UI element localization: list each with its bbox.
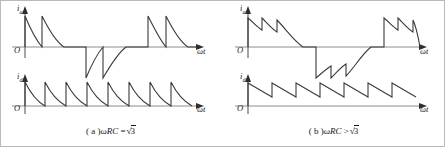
- x-axis: [235, 44, 427, 50]
- figure-container: ia O ωt id O ωt ( a )ωRC =√3: [0, 0, 445, 147]
- panel-b-anode-current-plot: [223, 2, 445, 70]
- radicand: 3: [131, 125, 137, 136]
- panel-b: ia O ωt id O ωt ( b )ωRC >√3: [223, 0, 445, 147]
- panel-a-anode-current-plot: [0, 2, 222, 70]
- waveform-diode-current-b: [248, 83, 416, 106]
- panel-a-diode-current-plot: [0, 70, 222, 120]
- panel-b-anode-x-axis-label: ωt: [420, 47, 428, 56]
- panel-b-caption: ( b )ωRC >√3: [223, 126, 445, 136]
- panel-b-diode-x-axis-label: ωt: [420, 105, 428, 114]
- panel-a-diode-x-axis-label: ωt: [197, 105, 205, 114]
- panel-a-diode-origin-label: O: [14, 104, 20, 113]
- panel-b-diode-origin-label: O: [237, 104, 243, 113]
- panel-b-caption-prefix: ( b ): [309, 126, 324, 136]
- panel-b-anode-y-axis-label: ia: [240, 4, 245, 15]
- x-axis: [235, 103, 427, 109]
- panel-b-diode-y-axis-label: id: [240, 72, 245, 83]
- panel-a-caption-radical: √3: [126, 126, 136, 136]
- panel-a-caption-lhs: ωRC: [100, 126, 118, 136]
- radicand: 3: [354, 125, 360, 136]
- panel-a-diode-y-axis-label: id: [17, 72, 22, 83]
- panel-a-anode-x-axis-label: ωt: [197, 47, 205, 56]
- waveform-anode-current-b: [248, 18, 420, 78]
- panel-b-caption-radical: √3: [349, 126, 359, 136]
- panel-a-caption: ( a )ωRC =√3: [0, 126, 222, 136]
- panel-b-diode-current-plot: [223, 70, 445, 120]
- panel-b-anode-origin-label: O: [237, 46, 243, 55]
- panel-a-anode-origin-label: O: [14, 46, 20, 55]
- panel-a-caption-prefix: ( a ): [86, 126, 101, 136]
- panel-a-anode-y-axis-label: ia: [17, 4, 22, 15]
- panel-b-caption-lhs: ωRC: [324, 126, 342, 136]
- panel-a: ia O ωt id O ωt ( a )ωRC =√3: [0, 0, 222, 147]
- waveform-diode-current-a: [25, 82, 192, 106]
